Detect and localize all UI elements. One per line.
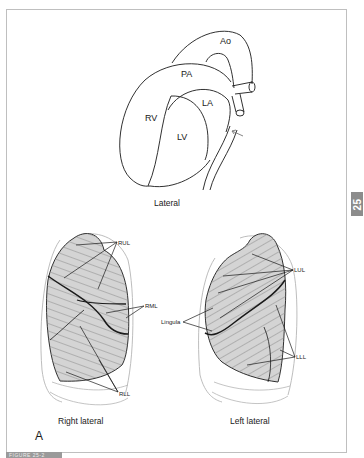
label-lll: LLL: [296, 354, 307, 360]
label-pa: PA: [181, 69, 192, 79]
label-lv: LV: [177, 132, 187, 142]
caption-left-lateral: Left lateral: [230, 416, 270, 426]
right-lateral-lung-diagram: [41, 234, 144, 405]
label-la: LA: [202, 98, 213, 108]
left-lateral-lung-diagram: [183, 234, 297, 404]
label-rul: RUL: [118, 240, 131, 246]
heart-lateral-diagram: [120, 31, 255, 190]
caption-lateral: Lateral: [154, 198, 180, 208]
label-rv: RV: [145, 113, 157, 123]
anatomy-diagram: Ao PA RV LA LV Lateral RUL RML RLL Right…: [0, 0, 364, 458]
caption-right-lateral: Right lateral: [58, 416, 103, 426]
label-lingula: Lingula: [161, 319, 181, 325]
label-lul: LUL: [294, 267, 306, 273]
chapter-tab: 25: [351, 192, 363, 216]
figure-caption-bar: FIGURE 25-2: [6, 452, 62, 458]
chapter-tab-label: 25: [352, 198, 363, 210]
label-ao: Ao: [220, 36, 231, 46]
panel-letter: A: [35, 429, 43, 443]
label-rll: RLL: [119, 391, 131, 397]
label-rml: RML: [145, 303, 158, 309]
